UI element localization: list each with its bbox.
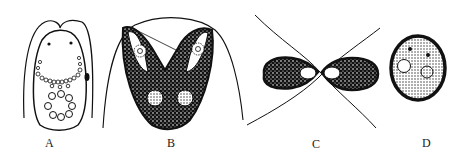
panel-c-drawing [247, 15, 380, 128]
panel-label-b: B [167, 136, 175, 151]
panel-label-a: A [45, 136, 54, 151]
panel-b-drawing [103, 18, 243, 129]
figure: A B C D [0, 0, 460, 161]
panel-label-d: D [422, 136, 431, 151]
panel-label-c: C [312, 137, 320, 152]
figure-drawing [0, 0, 460, 161]
panel-d-drawing [391, 36, 445, 100]
panel-a-drawing [24, 20, 93, 130]
